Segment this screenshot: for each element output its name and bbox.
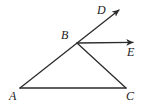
vertex-label-E: E	[127, 46, 134, 58]
vertex-label-C: C	[126, 90, 134, 102]
geometry-figure: A B C D E	[0, 0, 145, 110]
vertex-label-D: D	[97, 4, 106, 16]
ray-BE	[77, 42, 133, 43]
vertex-label-A: A	[9, 90, 16, 102]
geometry-diagram	[0, 0, 145, 110]
segment-BC	[77, 43, 126, 88]
vertex-label-B: B	[61, 29, 68, 41]
segment-AB-extended-to-D	[20, 10, 119, 88]
